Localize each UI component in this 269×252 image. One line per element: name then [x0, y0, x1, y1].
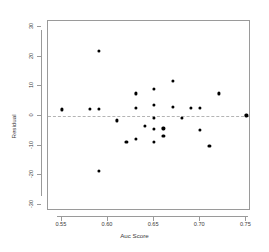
scatter-point	[153, 116, 156, 119]
y-axis-line	[41, 30, 42, 196]
x-axis-tick-label: 0.65	[138, 221, 168, 227]
y-axis-tick	[37, 115, 41, 116]
x-axis-tick-label-text: 0.55	[55, 221, 66, 227]
y-axis-title: Residual	[4, 0, 22, 252]
scatter-point	[153, 103, 156, 106]
scatter-point	[97, 169, 100, 172]
scatter-point	[162, 135, 165, 138]
y-axis-tick-label-text: -30	[28, 200, 34, 208]
y-axis-tick	[37, 204, 41, 205]
x-axis-tick-label: 0.75	[230, 221, 260, 227]
scatter-point	[134, 92, 137, 95]
scatter-point	[153, 127, 156, 130]
y-axis-tick-label-text: 10	[28, 82, 34, 88]
scatter-point	[199, 107, 202, 110]
y-axis-title-label: Residual	[10, 114, 17, 138]
scatter-point	[180, 116, 183, 119]
plot-panel	[47, 20, 250, 210]
x-axis-tick-label: 0.70	[184, 221, 214, 227]
y-axis-tick-label-text: 30	[28, 23, 34, 29]
scatter-point	[245, 114, 248, 117]
x-axis-tick-label-text: 0.75	[240, 221, 251, 227]
scatter-point	[97, 50, 100, 53]
scatter-point	[97, 107, 100, 110]
x-axis-title-label: Auc Score	[120, 232, 149, 239]
y-axis-tick-label: -30	[26, 199, 36, 209]
scatter-point	[88, 107, 91, 110]
scatter-point	[217, 92, 220, 95]
y-axis-tick-label-text: 20	[28, 53, 34, 59]
x-axis-tick-label-text: 0.60	[102, 221, 113, 227]
y-axis-tick-label: 10	[26, 80, 36, 90]
y-axis-tick	[37, 85, 41, 86]
scatter-point	[162, 127, 165, 130]
y-axis-tick-label: -10	[26, 140, 36, 150]
scatter-point	[134, 138, 137, 141]
scatter-point	[199, 128, 202, 131]
x-axis-tick-label: 0.55	[46, 221, 76, 227]
y-axis-tick-label-text: -10	[28, 141, 34, 149]
scatter-point	[125, 141, 128, 144]
scatter-point	[153, 140, 156, 143]
residual-scatter-figure: Residual Auc Score 3020100-10-20-30 0.55…	[0, 0, 269, 252]
scatter-point	[134, 107, 137, 110]
scatter-point	[189, 107, 192, 110]
y-axis-tick-label: 30	[26, 21, 36, 31]
y-axis-tick-label: -20	[26, 169, 36, 179]
scatter-point	[143, 125, 146, 128]
x-axis-tick-label-text: 0.70	[194, 221, 205, 227]
y-axis-tick	[37, 56, 41, 57]
scatter-point	[171, 105, 174, 108]
y-axis-tick-label: 0	[26, 110, 36, 120]
scatter-point	[60, 108, 63, 111]
scatter-point	[116, 119, 119, 122]
y-axis-tick	[37, 26, 41, 27]
y-axis-tick-label: 20	[26, 51, 36, 61]
x-axis-title: Auc Score	[0, 232, 269, 239]
y-axis-tick	[37, 145, 41, 146]
scatter-point	[153, 88, 156, 91]
y-axis-tick-label-text: -20	[28, 170, 34, 178]
x-axis-tick-label: 0.60	[92, 221, 122, 227]
scatter-points-layer	[48, 21, 249, 209]
y-axis-tick-label-text: 0	[28, 113, 34, 116]
y-axis-tick	[37, 174, 41, 175]
scatter-point	[171, 79, 174, 82]
scatter-point	[208, 145, 211, 148]
x-axis-tick-label-text: 0.65	[148, 221, 159, 227]
